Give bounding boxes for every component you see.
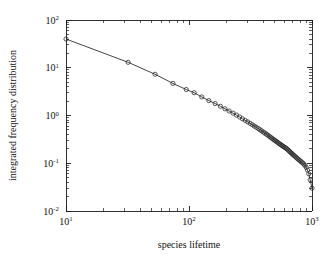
y-axis-title: integrated frequency distribution: [7, 50, 18, 181]
tick-label: 102: [46, 14, 60, 26]
tick-label: 100: [46, 110, 60, 122]
y-axis-major-ticks: [66, 20, 312, 211]
data-series-markers: [64, 37, 314, 190]
tick-label: 10-1: [43, 157, 59, 169]
x-axis-minor-ticks: [103, 20, 306, 211]
tick-label: 101: [46, 62, 59, 74]
chart-plot-area: 101102103 10-210-1100101102 species life…: [0, 0, 331, 259]
axis-frame: [66, 20, 312, 211]
y-axis-tick-labels: 10-210-1100101102: [43, 14, 59, 217]
tick-label: 102: [182, 215, 196, 227]
data-series-line: [66, 39, 312, 188]
x-axis-tick-labels: 101102103: [59, 215, 319, 227]
tick-label: 10-2: [43, 205, 59, 217]
y-axis-minor-ticks: [66, 22, 312, 196]
x-axis-title: species lifetime: [158, 239, 221, 250]
tick-label: 101: [59, 215, 72, 227]
tick-label: 103: [305, 215, 319, 227]
x-axis-major-ticks: [66, 20, 312, 211]
series-polyline: [66, 39, 312, 188]
chart-figure: 101102103 10-210-1100101102 species life…: [0, 0, 331, 259]
